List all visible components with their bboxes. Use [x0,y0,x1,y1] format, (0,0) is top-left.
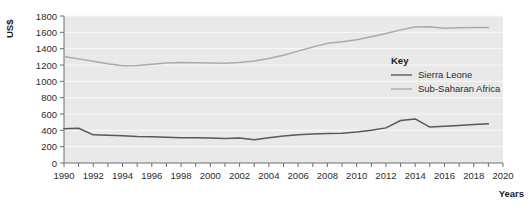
y-tick-label-800: 800 [41,92,57,103]
y-tick-label-1200: 1200 [36,60,57,71]
y-tick-label-1400: 1400 [36,43,57,54]
x-tick-label-1996: 1996 [141,170,162,181]
legend-title: Key [391,55,409,66]
x-tick-label-1998: 1998 [170,170,191,181]
y-tick-label-0: 0 [52,158,57,169]
legend-label-sierra-leone: Sierra Leone [418,69,472,80]
x-tick-label-2004: 2004 [258,170,279,181]
x-tick-label-2006: 2006 [288,170,309,181]
x-tick-label-2002: 2002 [229,170,250,181]
legend-label-sub-saharan-africa: Sub-Saharan Africa [418,83,501,94]
y-tick-label-1000: 1000 [36,76,57,87]
y-tick-label-400: 400 [41,125,57,136]
x-tick-label-1992: 1992 [83,170,104,181]
chart-container: 020040060080010001200140016001800 199019… [0,0,532,210]
x-tick-label-2008: 2008 [317,170,338,181]
x-tick-label-2020: 2020 [492,170,513,181]
y-tick-label-1600: 1600 [36,27,57,38]
x-tick-label-2014: 2014 [405,170,426,181]
x-tick-label-2010: 2010 [346,170,367,181]
x-tick-label-1994: 1994 [112,170,133,181]
line-chart: 020040060080010001200140016001800 199019… [0,0,532,210]
x-tick-label-2012: 2012 [375,170,396,181]
y-tick-label-200: 200 [41,141,57,152]
y-axis-title: US$ [4,19,15,38]
x-tick-label-2000: 2000 [200,170,221,181]
x-axis-title: Years [499,188,524,199]
x-tick-label-2018: 2018 [463,170,484,181]
y-tick-label-600: 600 [41,109,57,120]
x-tick-label-1990: 1990 [53,170,74,181]
x-tick-label-2016: 2016 [434,170,455,181]
y-tick-label-1800: 1800 [36,11,57,22]
